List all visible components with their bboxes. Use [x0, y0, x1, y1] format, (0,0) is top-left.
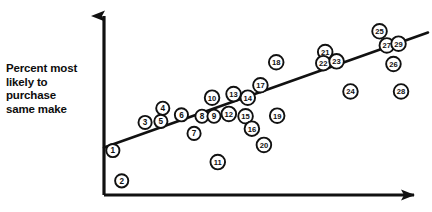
data-point-marker: 29	[391, 36, 406, 51]
data-point-label: 22	[319, 59, 327, 68]
data-point-marker: 7	[187, 127, 200, 140]
data-point-marker: 24	[343, 84, 358, 99]
data-point-marker: 10	[205, 90, 220, 105]
data-point-label: 28	[397, 87, 405, 96]
data-point-label: 26	[389, 60, 397, 69]
data-point-marker: 25	[372, 24, 387, 39]
data-point-marker: 28	[394, 84, 409, 99]
data-point-marker: 3	[138, 116, 151, 129]
data-point-marker: 20	[257, 138, 272, 153]
data-point-marker: 11	[210, 155, 225, 170]
data-point-label: 6	[179, 111, 184, 120]
data-point-label: 20	[260, 141, 268, 150]
data-point-label: 12	[225, 110, 233, 119]
data-point-marker: 2	[115, 174, 128, 187]
data-point-label: 1	[111, 146, 116, 155]
data-point-label: 24	[346, 87, 355, 96]
data-point-label: 5	[159, 117, 164, 126]
data-point-marker: 14	[240, 90, 255, 105]
data-point-marker: 23	[329, 54, 344, 69]
data-point-marker: 17	[253, 78, 268, 93]
data-point-label: 29	[394, 40, 402, 49]
data-point-label: 25	[375, 27, 384, 36]
scatter-plot-figure: Percent most likely to purchase same mak…	[0, 0, 432, 212]
data-points-layer: 1234567891011121314151617181920212223242…	[106, 24, 408, 187]
data-point-marker: 5	[154, 115, 167, 128]
data-point-label: 17	[256, 81, 264, 90]
data-point-marker: 22	[316, 56, 331, 71]
data-point-marker: 9	[207, 110, 220, 123]
data-point-label: 11	[214, 158, 223, 167]
data-point-marker: 19	[270, 108, 285, 123]
data-point-marker: 16	[245, 121, 260, 136]
data-point-label: 8	[200, 112, 205, 121]
data-point-marker: 6	[175, 108, 188, 121]
plot-canvas: 1234567891011121314151617181920212223242…	[0, 0, 432, 212]
data-point-label: 23	[332, 57, 340, 66]
data-point-label: 2	[119, 177, 124, 186]
data-point-label: 7	[192, 129, 197, 138]
data-point-label: 4	[160, 104, 165, 113]
data-point-label: 18	[272, 58, 280, 67]
data-point-label: 14	[244, 94, 253, 103]
data-point-label: 3	[143, 118, 148, 127]
data-point-marker: 4	[156, 102, 169, 115]
data-point-label: 19	[273, 112, 281, 121]
data-point-marker: 13	[226, 87, 241, 102]
data-point-label: 13	[229, 90, 237, 99]
data-point-label: 9	[212, 112, 217, 121]
data-point-marker: 1	[106, 144, 119, 157]
data-point-marker: 12	[222, 107, 237, 122]
data-point-marker: 18	[269, 55, 284, 70]
data-point-label: 27	[383, 41, 391, 50]
data-point-label: 16	[248, 125, 256, 134]
data-point-label: 10	[208, 94, 216, 103]
data-point-label: 15	[241, 112, 250, 121]
data-point-marker: 26	[386, 57, 401, 72]
